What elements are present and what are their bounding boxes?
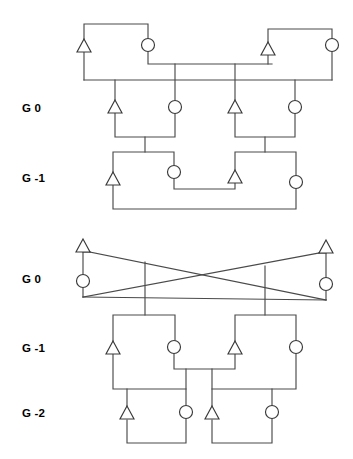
circle-node[interactable] bbox=[169, 101, 182, 114]
lower-nodes bbox=[76, 239, 333, 419]
edge-lower-gm1-left-box bbox=[113, 354, 186, 389]
edge-gm2-group-left bbox=[127, 418, 186, 443]
circle-node[interactable] bbox=[266, 406, 279, 419]
edge-diagonal-bottom-left-to-top-right bbox=[83, 253, 319, 297]
upper-nodes bbox=[77, 39, 339, 189]
edge-gm1-group-left bbox=[113, 152, 174, 175]
triangle-node[interactable] bbox=[106, 341, 120, 354]
circle-node[interactable] bbox=[180, 406, 193, 419]
level-label-bottom-gm2: G -2 bbox=[22, 407, 45, 419]
circle-node[interactable] bbox=[168, 341, 181, 354]
circle-node[interactable] bbox=[142, 39, 155, 52]
level-label-top-g0: G 0 bbox=[22, 102, 41, 114]
edge-lower-gm1-mid-link bbox=[174, 351, 235, 369]
circle-node[interactable] bbox=[77, 275, 90, 288]
diagram-canvas: G 0 G -1 bbox=[0, 0, 353, 459]
triangle-node[interactable] bbox=[76, 239, 90, 252]
level-label-bottom-g0: G 0 bbox=[22, 273, 41, 285]
edge-g0-group-left bbox=[115, 111, 175, 137]
edge-lower-gm1-group-right bbox=[235, 315, 296, 345]
graph-svg: G 0 G -1 bbox=[0, 0, 353, 459]
upper-diagram: G 0 G -1 bbox=[22, 24, 339, 209]
edge-gm1-group-right bbox=[235, 152, 296, 178]
edge-gm2-group-right bbox=[212, 418, 272, 443]
lower-diagram: G 0 G -1 G -2 bbox=[22, 239, 333, 443]
circle-node[interactable] bbox=[326, 39, 339, 52]
level-label-top-gm1: G -1 bbox=[22, 172, 46, 184]
triangle-node[interactable] bbox=[261, 42, 275, 55]
edge-bottom-horizontal-bus bbox=[83, 297, 326, 300]
edge-gm1-outer-link bbox=[113, 184, 296, 209]
circle-node[interactable] bbox=[290, 176, 303, 189]
edge-diagonal-top-left-to-bottom-right bbox=[90, 252, 326, 300]
circle-node[interactable] bbox=[290, 341, 303, 354]
triangle-node[interactable] bbox=[228, 100, 242, 113]
triangle-node[interactable] bbox=[120, 406, 134, 419]
edge-lower-gm1-group-left bbox=[113, 315, 175, 345]
edge-lower-gm1-right-box bbox=[212, 351, 296, 389]
triangle-node[interactable] bbox=[228, 341, 242, 354]
edge-gm1-inner-link bbox=[174, 176, 235, 189]
level-label-bottom-gm1: G -1 bbox=[22, 342, 46, 354]
triangle-node[interactable] bbox=[205, 406, 219, 419]
triangle-node[interactable] bbox=[228, 170, 242, 183]
triangle-node[interactable] bbox=[108, 100, 122, 113]
edge-g0-group-right bbox=[235, 111, 295, 137]
circle-node[interactable] bbox=[320, 278, 333, 291]
edge-top-circle-left-down bbox=[148, 48, 272, 64]
triangle-node[interactable] bbox=[106, 172, 120, 185]
edge-top-pair-left bbox=[84, 24, 148, 47]
triangle-node[interactable] bbox=[319, 240, 333, 253]
triangle-node[interactable] bbox=[77, 39, 91, 52]
circle-node[interactable] bbox=[168, 166, 181, 179]
edge-top-pair-right bbox=[268, 29, 332, 50]
circle-node[interactable] bbox=[289, 101, 302, 114]
